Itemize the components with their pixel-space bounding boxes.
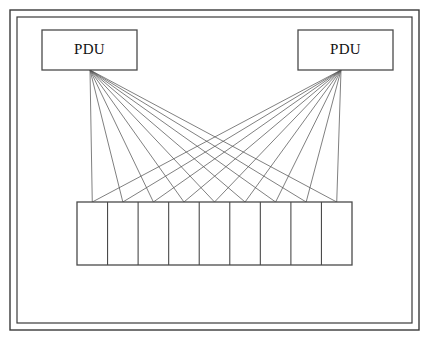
cable-fan-group	[90, 70, 341, 202]
pdu-left-label: PDU	[74, 41, 105, 57]
power-cable	[215, 70, 342, 202]
power-cable	[90, 70, 92, 202]
power-cable	[92, 70, 341, 202]
power-cable	[245, 70, 341, 202]
power-cable	[337, 70, 341, 202]
power-cable	[90, 70, 306, 202]
power-cable	[90, 70, 184, 202]
diagram-canvas: PDU PDU	[0, 0, 429, 341]
pdu-left[interactable]: PDU	[42, 30, 137, 70]
power-cable	[90, 70, 245, 202]
power-cable	[184, 70, 341, 202]
equipment-rack	[77, 202, 352, 265]
pdu-right-label: PDU	[330, 41, 361, 57]
pdu-rack-diagram: PDU PDU	[0, 0, 429, 341]
power-cable	[306, 70, 341, 202]
pdu-right[interactable]: PDU	[298, 30, 393, 70]
rack-outline	[77, 202, 352, 265]
power-cable	[90, 70, 153, 202]
power-cable	[90, 70, 337, 202]
power-cable	[90, 70, 215, 202]
